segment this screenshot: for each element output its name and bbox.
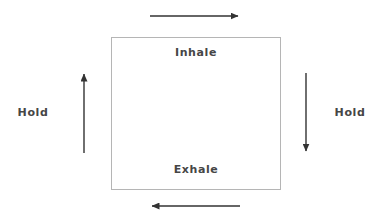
exhale-label: Exhale bbox=[111, 164, 281, 175]
box-breathing-diagram: Inhale Exhale Hold Hold bbox=[0, 0, 383, 223]
hold-label-left: Hold bbox=[0, 107, 66, 118]
inhale-label: Inhale bbox=[111, 47, 281, 58]
hold-label-right: Hold bbox=[317, 107, 383, 118]
